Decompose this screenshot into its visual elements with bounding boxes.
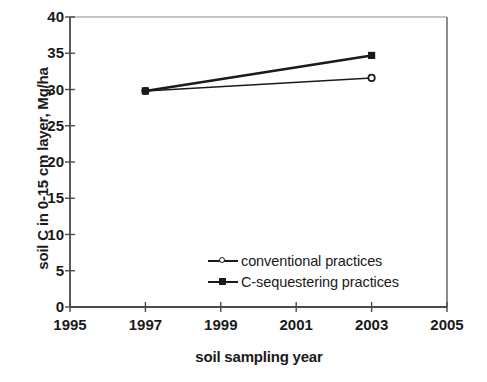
data-point-square — [368, 52, 375, 59]
legend-label: C-sequestering practices — [241, 274, 399, 290]
data-point-square — [142, 87, 149, 94]
legend-marker-filled-square-icon — [208, 275, 238, 289]
plot-area — [0, 0, 487, 382]
legend-marker — [219, 257, 225, 263]
legend-marker-open-circle-icon — [208, 254, 238, 268]
legend-item: C-sequestering practices — [208, 271, 399, 292]
legend-label: conventional practices — [241, 253, 382, 269]
series-line — [145, 55, 371, 91]
series-group — [142, 52, 375, 95]
chart-figure: soil C in 0-15 cm layer, Mg/ha soil samp… — [0, 0, 487, 382]
legend-marker — [219, 278, 226, 285]
data-point-circle — [368, 75, 374, 81]
chart-legend: conventional practicesC-sequestering pra… — [208, 250, 399, 292]
legend-item: conventional practices — [208, 250, 399, 271]
